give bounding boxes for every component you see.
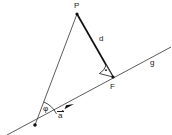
label-vector-a-text: a: [58, 111, 62, 120]
label-point-f: F: [110, 83, 115, 91]
label-line-g: g: [150, 59, 154, 67]
line-g: [7, 47, 171, 135]
right-angle-dot: [105, 69, 107, 71]
label-distance-d: d: [99, 35, 103, 43]
direction-arrow-head: [65, 104, 75, 109]
geometry-diagram-canvas: P F d g φ a: [0, 0, 172, 135]
label-angle-phi: φ: [43, 105, 48, 113]
label-vector-a: a: [58, 111, 62, 120]
origin-vertex-dot: [33, 123, 37, 127]
label-point-p: P: [74, 2, 79, 10]
geometry-figure: [0, 0, 172, 135]
point-p-dot: [75, 12, 78, 15]
point-f-dot: [111, 75, 114, 78]
